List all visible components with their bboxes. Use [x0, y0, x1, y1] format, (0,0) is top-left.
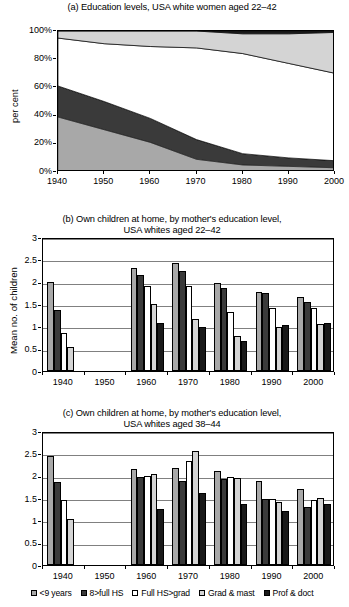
- legend-label: <9 years: [40, 588, 72, 598]
- panel-b-bar: [192, 319, 199, 371]
- panel-c-x-tickmark: [251, 566, 252, 569]
- panel-c-x-tickmark: [42, 566, 43, 569]
- panel-b-bar: [311, 308, 318, 371]
- panel-a-y-tick-label: 0%: [13, 167, 52, 176]
- panel-c-children-38-44: (c) Own children at home, by mother's ed…: [0, 392, 344, 582]
- panel-a-plot-box: [57, 30, 334, 171]
- panel-c-x-tick-label: 2000: [293, 572, 333, 581]
- panel-c-bar: [324, 504, 331, 565]
- legend-swatch-square-swatch: [199, 590, 205, 596]
- panel-b-y-tick-label: 0: [12, 368, 37, 377]
- panel-a-education-levels: (a) Education levels, USA white women ag…: [0, 0, 344, 196]
- panel-b-plot-box: [42, 238, 334, 372]
- panel-b-bar: [157, 323, 164, 371]
- panel-c-bar: [297, 489, 304, 565]
- panel-c-y-tick-label: 1.5: [12, 495, 37, 504]
- panel-b-y-tickmark: [38, 350, 41, 351]
- panel-b-y-tick-label: 2.5: [12, 256, 37, 265]
- panel-a-y-tick-label: 20%: [13, 138, 52, 147]
- panel-a-y-tickmark: [53, 86, 56, 87]
- panel-b-y-tickmark: [38, 283, 41, 284]
- panel-c-bar: [241, 504, 248, 565]
- panel-c-y-tickmark: [38, 521, 41, 522]
- panel-c-y-tickmark: [38, 477, 41, 478]
- panel-a-y-tick-label: 40%: [13, 110, 52, 119]
- panel-b-bar: [324, 323, 331, 371]
- panel-c-y-tick-label: 2.5: [12, 450, 37, 459]
- panel-b-x-tickmark: [334, 372, 335, 375]
- panel-c-y-tick-label: 0.5: [12, 539, 37, 548]
- panel-c-y-tickmark: [38, 499, 41, 500]
- panel-b-x-tick-label: 1980: [210, 378, 250, 387]
- panel-c-x-tick-label: 1970: [168, 572, 208, 581]
- panel-b-bar: [282, 325, 289, 371]
- panel-c-y-tick-label: 1: [12, 517, 37, 526]
- panel-b-y-tickmark: [38, 260, 41, 261]
- panel-a-x-tickmark: [242, 171, 243, 174]
- panel-a-title: (a) Education levels, USA white women ag…: [0, 2, 344, 14]
- panel-c-x-tickmark: [292, 566, 293, 569]
- panel-a-x-tickmark: [196, 171, 197, 174]
- panel-c-bar: [186, 461, 193, 565]
- panel-b-y-tickmark: [38, 305, 41, 306]
- panel-a-x-tickmark: [149, 171, 150, 174]
- panel-b-bar: [144, 286, 151, 371]
- panel-a-y-tickmark: [53, 171, 56, 172]
- panel-c-y-tick-label: 2: [12, 472, 37, 481]
- panel-a-stacked-area: [58, 31, 334, 171]
- panel-b-x-tick-label: 1970: [168, 378, 208, 387]
- panel-c-x-tickmark: [209, 566, 210, 569]
- panel-b-bar: [54, 310, 61, 371]
- panel-b-bar: [241, 341, 248, 371]
- panel-c-bar: [276, 502, 283, 565]
- panel-c-bar: [61, 500, 68, 565]
- panel-b-bar: [276, 327, 283, 371]
- panel-a-x-tick-label: 1990: [268, 177, 308, 186]
- panel-c-bar: [137, 477, 144, 565]
- panel-c-bar: [157, 509, 164, 565]
- panel-c-bar: [304, 507, 311, 566]
- panel-b-bar: [227, 312, 234, 371]
- panel-b-x-tickmark: [167, 372, 168, 375]
- panel-c-x-tick-label: 1980: [210, 572, 250, 581]
- panel-a-x-tick-label: 1940: [37, 177, 77, 186]
- panel-c-x-tickmark: [334, 566, 335, 569]
- panel-a-y-tickmark: [53, 58, 56, 59]
- legend-label: Full HS>grad: [141, 588, 190, 598]
- panel-c-gridline: [43, 455, 333, 456]
- panel-c-x-tickmark: [125, 566, 126, 569]
- panel-c-bar: [47, 456, 54, 565]
- panel-a-y-tickmark: [53, 143, 56, 144]
- legend-swatch-square-swatch: [132, 590, 138, 596]
- panel-b-bar: [131, 268, 138, 371]
- panel-c-y-tickmark: [38, 432, 41, 433]
- panel-c-bar: [179, 481, 186, 565]
- panel-b-gridline: [43, 261, 333, 262]
- panel-b-bar: [214, 283, 221, 371]
- panel-c-bar: [234, 478, 241, 565]
- panel-b-x-tickmark: [209, 372, 210, 375]
- panel-c-y-tickmark: [38, 544, 41, 545]
- panel-a-x-tick-label: 2000: [314, 177, 349, 186]
- panel-b-bar: [221, 288, 228, 371]
- panel-a-x-tick-label: 1970: [176, 177, 216, 186]
- legend-label: 8>full HS: [90, 588, 124, 598]
- panel-b-gridline: [43, 239, 333, 240]
- panel-b-bar: [151, 304, 158, 371]
- panel-b-bar: [199, 327, 206, 371]
- panel-c-y-tick-label: 0: [12, 562, 37, 571]
- panel-c-y-tickmark: [38, 566, 41, 567]
- legend-item-1: 8>full HS: [81, 588, 124, 598]
- panel-a-y-tick-label: 100%: [13, 26, 52, 35]
- legend-item-4: Prof & doct: [264, 588, 314, 598]
- panel-a-x-tickmark: [103, 171, 104, 174]
- panel-b-bar: [186, 286, 193, 371]
- panel-b-bar: [317, 324, 324, 371]
- panel-b-x-tick-label: 1990: [251, 378, 291, 387]
- panel-a-y-tick-label: 60%: [13, 82, 52, 91]
- panel-c-x-tick-label: 1990: [251, 572, 291, 581]
- panel-a-x-tickmark: [57, 171, 58, 174]
- legend-swatch-square-swatch: [81, 590, 87, 596]
- panel-c-bar: [144, 476, 151, 565]
